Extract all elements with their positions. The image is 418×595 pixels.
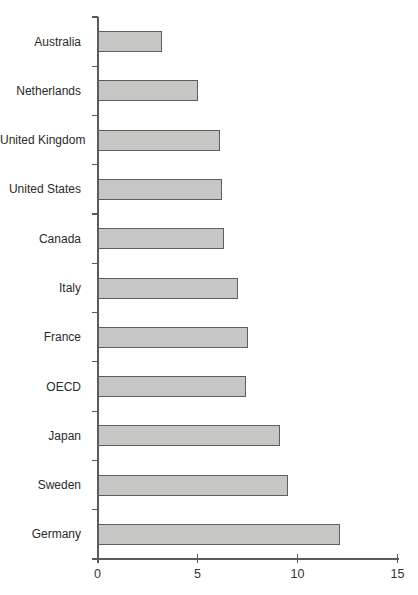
bar-france (98, 327, 248, 348)
x-axis-tick (397, 554, 398, 563)
bar-united-kingdom (98, 130, 220, 151)
bar-chart: AustraliaNetherlandsUnited KingdomUnited… (0, 0, 418, 595)
bar-australia (98, 31, 162, 52)
category-label: Sweden (0, 477, 81, 493)
category-label: United Kingdom (0, 132, 81, 148)
x-axis-tick-label: 15 (383, 567, 413, 581)
y-axis-tick (92, 164, 98, 165)
category-label: United States (0, 181, 81, 197)
category-label: Japan (0, 428, 81, 444)
y-axis-tick (92, 16, 98, 17)
bar-oecd (98, 376, 246, 397)
x-axis-tick (197, 554, 198, 563)
category-label: Australia (0, 34, 81, 50)
x-axis-tick-label: 10 (283, 567, 313, 581)
category-label: Italy (0, 280, 81, 296)
y-axis-tick (92, 263, 98, 264)
category-label: OECD (0, 379, 81, 395)
bar-sweden (98, 475, 288, 496)
y-axis-tick (92, 411, 98, 412)
x-axis-tick-label: 0 (83, 567, 113, 581)
category-label: Netherlands (0, 83, 81, 99)
x-axis-tick (297, 554, 298, 563)
y-axis-tick (92, 213, 98, 214)
bar-japan (98, 425, 280, 446)
x-axis-line (97, 558, 399, 560)
y-axis-tick (92, 460, 98, 461)
y-axis-tick (92, 509, 98, 510)
bar-canada (98, 228, 224, 249)
category-label: Germany (0, 526, 81, 542)
bar-united-states (98, 179, 222, 200)
category-label: France (0, 329, 81, 345)
bar-netherlands (98, 80, 198, 101)
bar-italy (98, 278, 238, 299)
y-axis-tick (92, 66, 98, 67)
category-label: Canada (0, 231, 81, 247)
y-axis-tick (92, 312, 98, 313)
y-axis-tick (92, 361, 98, 362)
y-axis-tick (92, 115, 98, 116)
x-axis-tick-label: 5 (183, 567, 213, 581)
x-axis-tick (97, 554, 98, 563)
bar-germany (98, 524, 340, 545)
